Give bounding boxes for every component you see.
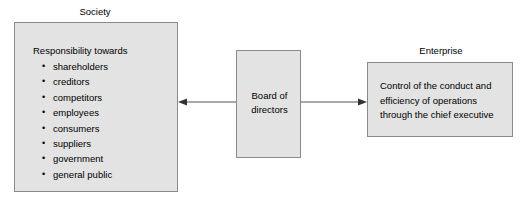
society-box: Responsibility towards shareholders cred…: [14, 22, 178, 192]
enterprise-line-1: Control of the conduct and: [380, 79, 494, 94]
enterprise-caption: Enterprise: [408, 45, 474, 57]
society-responsibility-list: shareholders creditors competitors emplo…: [42, 59, 112, 182]
list-item: creditors: [42, 74, 112, 89]
enterprise-line-2: efficiency of operations: [380, 94, 494, 109]
board-label-line-1: Board of: [237, 89, 302, 103]
board-of-directors-box: Board of directors: [236, 50, 301, 158]
society-heading: Responsibility towards: [33, 45, 128, 56]
list-item: employees: [42, 105, 112, 120]
board-label-line-2: directors: [237, 103, 302, 117]
board-of-directors-label: Board of directors: [237, 89, 302, 117]
list-item: consumers: [42, 121, 112, 136]
arrow-board-to-society-icon: [178, 98, 236, 105]
society-caption: Society: [62, 6, 128, 18]
diagram-canvas: Society Responsibility towards sharehold…: [0, 0, 528, 205]
list-item: government: [42, 151, 112, 166]
list-item: competitors: [42, 90, 112, 105]
enterprise-box: Control of the conduct and efficiency of…: [367, 62, 513, 137]
list-item: shareholders: [42, 59, 112, 74]
list-item: suppliers: [42, 136, 112, 151]
list-item: general public: [42, 167, 112, 182]
arrow-board-to-enterprise-icon: [301, 98, 367, 105]
enterprise-line-3: through the chief executive: [380, 108, 494, 123]
enterprise-description: Control of the conduct and efficiency of…: [380, 79, 494, 123]
